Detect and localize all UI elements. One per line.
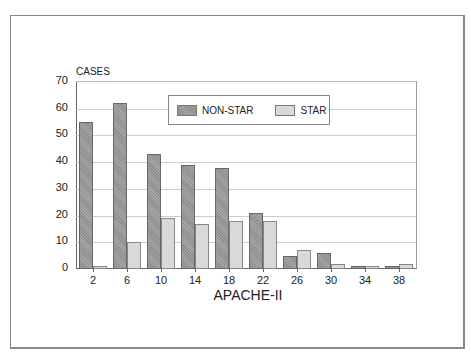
- x-tick-mark: [331, 268, 332, 272]
- x-tick-label: 18: [214, 274, 244, 286]
- bar-non-star: [385, 266, 399, 269]
- bar-star: [365, 266, 379, 269]
- x-tick-mark: [161, 268, 162, 272]
- x-tick-mark: [127, 268, 128, 272]
- y-tick-label: 70: [40, 75, 68, 86]
- x-tick-label: 14: [180, 274, 210, 286]
- bar-non-star: [317, 253, 331, 269]
- x-tick-label: 6: [112, 274, 142, 286]
- x-tick-label: 34: [350, 274, 380, 286]
- bar-star: [229, 221, 243, 269]
- bar-star: [161, 218, 175, 269]
- y-tick-label: 0: [40, 262, 68, 273]
- x-tick-mark: [263, 268, 264, 272]
- x-tick-label: 22: [248, 274, 278, 286]
- bar-non-star: [181, 165, 195, 269]
- x-tick-label: 30: [316, 274, 346, 286]
- x-tick-label: 38: [384, 274, 414, 286]
- bar-non-star: [249, 213, 263, 269]
- bar-non-star: [147, 154, 161, 269]
- legend-swatch-star: [275, 105, 295, 116]
- x-tick-label: 10: [146, 274, 176, 286]
- bar-star: [195, 224, 209, 269]
- x-tick-mark: [93, 268, 94, 272]
- bar-non-star: [215, 168, 229, 270]
- bar-star: [263, 221, 277, 269]
- y-tick-label: 50: [40, 128, 68, 139]
- y-axis-label: CASES: [76, 66, 110, 77]
- bar-star: [297, 250, 311, 269]
- y-tick-label: 10: [40, 235, 68, 246]
- x-tick-label: 2: [78, 274, 108, 286]
- y-axis-line: [76, 82, 77, 269]
- y-tick-label: 40: [40, 155, 68, 166]
- gridline: [76, 189, 416, 190]
- y-tick-label: 20: [40, 209, 68, 220]
- bar-non-star: [283, 256, 297, 269]
- legend-label-non-star: NON-STAR: [202, 105, 253, 116]
- x-tick-mark: [229, 268, 230, 272]
- bar-star: [127, 242, 141, 269]
- x-tick-mark: [399, 268, 400, 272]
- bar-star: [93, 266, 107, 269]
- x-axis-label: APACHE-II: [0, 287, 471, 303]
- gridline: [76, 162, 416, 163]
- gridline: [76, 135, 416, 136]
- legend-swatch-non-star: [177, 105, 197, 116]
- bar-star: [399, 264, 413, 269]
- gridline: [76, 216, 416, 217]
- x-tick-mark: [195, 268, 196, 272]
- x-tick-mark: [365, 268, 366, 272]
- bar-non-star: [79, 122, 93, 269]
- bar-star: [331, 264, 345, 269]
- y-tick-label: 30: [40, 182, 68, 193]
- x-tick-mark: [297, 268, 298, 272]
- legend: NON-STAR STAR: [168, 95, 330, 125]
- bar-non-star: [113, 103, 127, 269]
- legend-label-star: STAR: [300, 105, 326, 116]
- x-tick-label: 26: [282, 274, 312, 286]
- y-tick-label: 60: [40, 102, 68, 113]
- bar-non-star: [351, 266, 365, 269]
